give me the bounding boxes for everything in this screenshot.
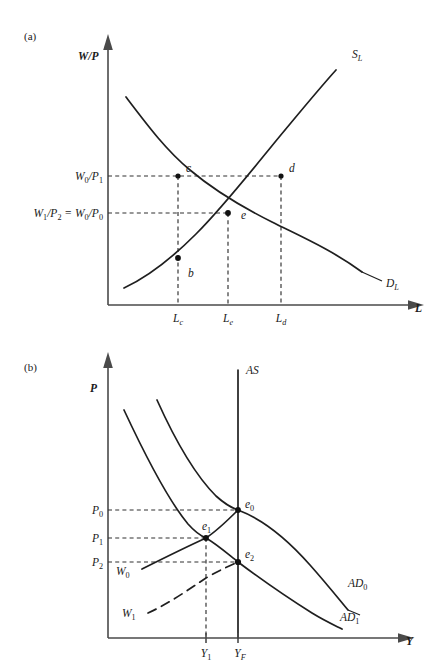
point-label-d: d	[289, 162, 295, 174]
x-tick-label-ld: Ld	[275, 312, 287, 327]
point-marker-e1	[203, 535, 209, 541]
x-tick-label-y1: Y1	[201, 647, 212, 662]
panel-a-guides	[108, 176, 281, 305]
point-marker-e0	[235, 507, 241, 513]
curve-label-as: AS	[245, 364, 259, 376]
panel-a-y-axis-title: W/P	[78, 50, 99, 62]
panel-a-x-axis	[108, 300, 424, 310]
curve-label-dl: DL	[385, 277, 399, 292]
point-label-c: c	[186, 162, 191, 174]
point-marker-b	[175, 255, 181, 261]
curve-aggregate-demand-1	[124, 410, 342, 629]
point-label-e0: e0	[245, 498, 254, 513]
y-tick-label-w0-p1: W0/P1	[75, 170, 103, 185]
point-marker-e	[225, 210, 231, 216]
y-tick-label-p1: P1	[91, 532, 103, 547]
point-marker-d	[278, 173, 283, 178]
point-label-b: b	[188, 267, 194, 279]
point-label-e2: e2	[245, 548, 254, 563]
curve-labour-demand	[126, 97, 362, 272]
panel-a-points	[175, 173, 284, 261]
economics-figure: (a) W/P L SL DL	[0, 0, 439, 668]
curve-short-run-supply-w0	[142, 510, 238, 569]
panel-a-y-axis	[103, 34, 113, 305]
curve-label-w1: W1	[122, 607, 136, 622]
point-label-e1: e1	[202, 520, 211, 535]
curve-label-sl: SL	[352, 48, 363, 63]
panel-a-x-axis-title: L	[414, 302, 422, 314]
point-marker-c	[175, 173, 180, 178]
x-tick-label-yf: YF	[234, 647, 246, 662]
panel-b-x-axis	[108, 633, 414, 643]
panel-b-x-axis-title: Y	[406, 635, 414, 647]
x-tick-label-le: Le	[222, 312, 233, 327]
panel-b-label: (b)	[24, 361, 37, 374]
point-marker-e2	[235, 559, 241, 565]
panel-b: (b) P Y AS	[24, 352, 414, 662]
panel-a: (a) W/P L SL DL	[24, 30, 424, 327]
curve-label-w0: W0	[116, 565, 130, 580]
curve-short-run-supply-w1	[148, 562, 238, 613]
y-tick-label-w1-p2-eq-w0-p0: W1/P2 = W0/P0	[33, 207, 103, 222]
curve-labour-supply	[124, 70, 336, 288]
point-label-e: e	[241, 209, 246, 221]
panel-a-label: (a)	[24, 30, 37, 43]
panel-b-y-axis	[103, 352, 113, 638]
x-tick-label-lc: Lc	[172, 312, 183, 327]
panel-b-y-axis-title: P	[90, 382, 98, 394]
y-tick-label-p2: P2	[91, 556, 103, 571]
curve-label-ad0: AD0	[347, 577, 367, 592]
y-tick-label-p0: P0	[91, 504, 103, 519]
